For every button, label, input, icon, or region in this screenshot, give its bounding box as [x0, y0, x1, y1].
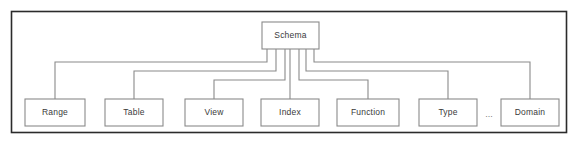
- node-label-function: Function: [351, 107, 385, 117]
- node-label-index: Index: [279, 107, 301, 117]
- node-table[interactable]: Table: [105, 99, 163, 126]
- node-range[interactable]: Range: [25, 99, 85, 126]
- diagram-canvas: SchemaRangeTableViewIndexFunctionTypeDom…: [0, 0, 580, 144]
- node-domain[interactable]: Domain: [501, 99, 559, 126]
- node-label-type: Type: [438, 107, 457, 117]
- node-view[interactable]: View: [185, 99, 243, 126]
- ellipsis-label: ...: [485, 109, 493, 119]
- node-label-range: Range: [42, 107, 68, 117]
- node-schema[interactable]: Schema: [262, 22, 319, 49]
- node-label-domain: Domain: [515, 107, 546, 117]
- node-function[interactable]: Function: [337, 99, 399, 126]
- node-index[interactable]: Index: [261, 99, 319, 126]
- node-label-schema: Schema: [274, 30, 306, 40]
- node-label-table: Table: [123, 107, 144, 117]
- node-type[interactable]: Type: [419, 99, 477, 126]
- node-label-view: View: [204, 107, 224, 117]
- schema-hierarchy-diagram: SchemaRangeTableViewIndexFunctionTypeDom…: [0, 0, 580, 144]
